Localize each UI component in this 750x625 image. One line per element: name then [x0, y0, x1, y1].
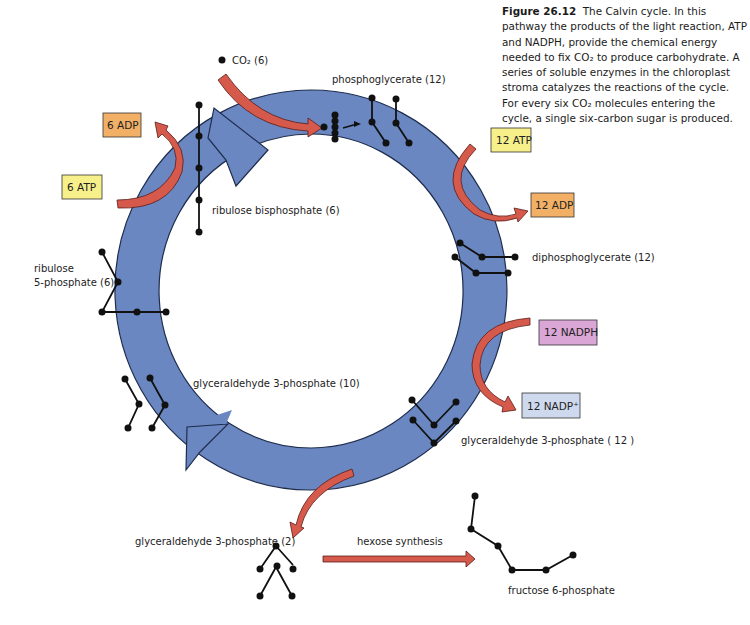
g3p-12-label: glyceraldehyde 3-phosphate ( 12 ) — [461, 435, 634, 446]
svg-text:12 NADPH: 12 NADPH — [544, 326, 598, 338]
svg-text:6 ADP: 6 ADP — [107, 119, 139, 131]
hexose-synthesis-label: hexose synthesis — [357, 536, 443, 547]
co2-dot-icon — [219, 57, 226, 64]
diphosphoglycerate-label: diphosphoglycerate (12) — [532, 252, 655, 263]
fructose-6p-label: fructose 6-phosphate — [508, 585, 615, 596]
svg-text:12 ATP: 12 ATP — [496, 134, 532, 146]
ribulose-5p-label-line2: 5-phosphate (6) — [34, 277, 114, 288]
g3p-2-label: glyceraldehyde 3-phosphate (2) — [135, 536, 295, 547]
hexose-synthesis-step: hexose synthesis fructose 6-phosphate — [323, 493, 615, 597]
figure-caption-text: The Calvin cycle. In this pathway the pr… — [502, 5, 747, 124]
phosphoglycerate-label: phosphoglycerate (12) — [332, 74, 446, 85]
g3p-exit-step: glyceraldehyde 3-phosphate (2) — [135, 469, 354, 600]
svg-text:6 ATP: 6 ATP — [67, 181, 96, 193]
g3p-10-label: glyceraldehyde 3-phosphate (10) — [193, 378, 360, 389]
figure-number: Figure 26.12 — [502, 5, 576, 17]
svg-text:12 NADP⁺: 12 NADP⁺ — [527, 400, 579, 412]
figure-caption: Figure 26.12 The Calvin cycle. In this p… — [502, 4, 748, 126]
svg-text:12 ADP: 12 ADP — [535, 199, 573, 211]
ribulose-bisphosphate-label: ribulose bisphosphate (6) — [212, 205, 340, 216]
ribulose-5p-label-line1: ribulose — [34, 263, 74, 274]
hexose-synthesis-arrow — [323, 551, 475, 567]
co2-label: CO₂ (6) — [232, 55, 268, 66]
